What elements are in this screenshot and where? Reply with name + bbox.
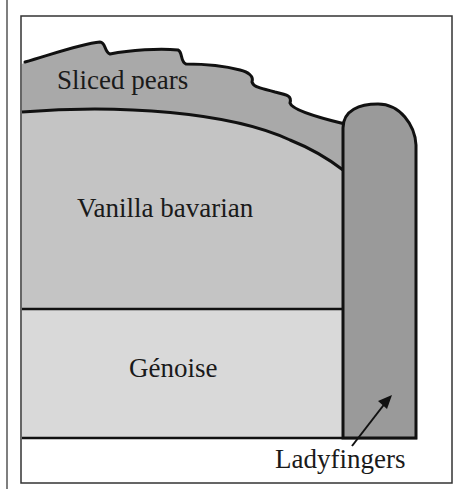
label-vanilla-bavarian: Vanilla bavarian bbox=[77, 195, 253, 222]
label-ladyfingers: Ladyfingers bbox=[275, 446, 405, 473]
cake-diagram: Sliced pears Vanilla bavarian Génoise La… bbox=[0, 0, 464, 489]
label-sliced-pears: Sliced pears bbox=[57, 67, 188, 94]
label-genoise: Génoise bbox=[129, 355, 217, 382]
ladyfinger-shape bbox=[343, 104, 416, 438]
